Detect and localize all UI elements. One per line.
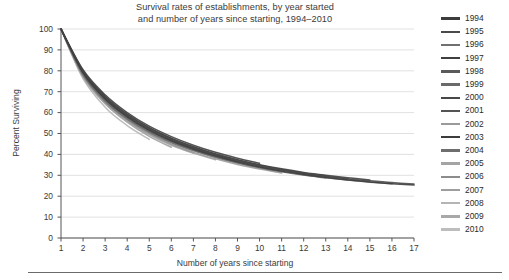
legend-item-label: 2001 <box>465 106 484 115</box>
chart-figure: Survival rates of establishments, by yea… <box>0 0 509 280</box>
x-tick-label: 8 <box>207 244 223 252</box>
series-line-2006 <box>61 29 193 153</box>
legend-item-2002[interactable]: 2002 <box>441 118 509 131</box>
legend-item-label: 1996 <box>465 40 484 49</box>
y-tick-label: 90 <box>31 46 53 54</box>
series-line-1994 <box>61 29 414 185</box>
x-tick-label: 14 <box>340 244 356 252</box>
series-line-2001 <box>61 29 304 174</box>
x-tick-label: 9 <box>230 244 246 252</box>
legend-item-label: 1994 <box>465 14 484 23</box>
x-tick-label: 17 <box>406 244 422 252</box>
x-tick-label: 11 <box>274 244 290 252</box>
x-tick-label: 2 <box>75 244 91 252</box>
legend-item-label: 2002 <box>465 120 484 129</box>
legend-item-2007[interactable]: 2007 <box>441 183 509 196</box>
y-tick-label: 100 <box>31 25 53 33</box>
legend-item-label: 2006 <box>465 172 484 181</box>
legend-item-2003[interactable]: 2003 <box>441 131 509 144</box>
legend-line-swatch <box>441 202 460 204</box>
series-line-2004 <box>61 29 238 162</box>
legend-item-label: 2009 <box>465 212 484 221</box>
legend-item-1997[interactable]: 1997 <box>441 52 509 65</box>
plot-svg <box>0 0 509 280</box>
legend-line-swatch <box>441 189 460 191</box>
legend-line-swatch <box>441 57 460 59</box>
legend-line-swatch <box>441 83 460 85</box>
legend-line-swatch <box>441 70 460 72</box>
x-tick-label: 10 <box>252 244 268 252</box>
legend-item-label: 2008 <box>465 199 484 208</box>
legend-item-label: 2000 <box>465 93 484 102</box>
y-tick-label: 40 <box>31 150 53 158</box>
legend-item-2005[interactable]: 2005 <box>441 157 509 170</box>
legend-line-swatch <box>441 136 460 138</box>
x-tick-label: 12 <box>296 244 312 252</box>
legend-item-1994[interactable]: 1994 <box>441 12 509 25</box>
x-tick-label: 4 <box>119 244 135 252</box>
legend-item-1998[interactable]: 1998 <box>441 65 509 78</box>
legend-item-label: 2003 <box>465 133 484 142</box>
y-tick-label: 0 <box>31 234 53 242</box>
x-tick-label: 3 <box>97 244 113 252</box>
legend-item-label: 2007 <box>465 186 484 195</box>
y-tick-label: 30 <box>31 171 53 179</box>
legend-item-label: 1995 <box>465 27 484 36</box>
legend-item-label: 2005 <box>465 159 484 168</box>
legend-item-2006[interactable]: 2006 <box>441 170 509 183</box>
chart-legend: 1994199519961997199819992000200120022003… <box>441 12 509 236</box>
series-line-2003 <box>61 29 260 163</box>
y-tick-label: 20 <box>31 192 53 200</box>
legend-line-swatch <box>441 17 460 19</box>
legend-item-2009[interactable]: 2009 <box>441 210 509 223</box>
legend-item-2004[interactable]: 2004 <box>441 144 509 157</box>
legend-line-swatch <box>441 97 460 99</box>
legend-line-swatch <box>441 162 460 164</box>
y-tick-label: 50 <box>31 129 53 137</box>
y-tick-label: 80 <box>31 67 53 75</box>
x-tick-label: 1 <box>53 244 69 252</box>
legend-line-swatch <box>441 123 460 125</box>
legend-item-label: 2004 <box>465 146 484 155</box>
legend-line-swatch <box>441 31 460 33</box>
x-tick-label: 15 <box>362 244 378 252</box>
legend-item-1999[interactable]: 1999 <box>441 78 509 91</box>
legend-item-1996[interactable]: 1996 <box>441 38 509 51</box>
x-tick-label: 13 <box>318 244 334 252</box>
y-axis-title: Percent Surviving <box>11 63 21 183</box>
legend-item-2000[interactable]: 2000 <box>441 91 509 104</box>
series-line-2005 <box>61 29 215 160</box>
legend-item-label: 2010 <box>465 225 484 234</box>
legend-line-swatch <box>441 176 460 178</box>
legend-line-swatch <box>441 228 460 230</box>
x-tick-label: 6 <box>163 244 179 252</box>
legend-item-label: 1998 <box>465 67 484 76</box>
x-tick-label: 5 <box>141 244 157 252</box>
legend-line-swatch <box>441 110 460 112</box>
legend-item-2001[interactable]: 2001 <box>441 104 509 117</box>
y-tick-label: 60 <box>31 108 53 116</box>
series-line-2002 <box>61 29 282 173</box>
y-tick-label: 10 <box>31 213 53 221</box>
x-tick-label: 16 <box>384 244 400 252</box>
legend-line-swatch <box>441 215 460 217</box>
legend-item-2010[interactable]: 2010 <box>441 223 509 236</box>
plot-area <box>0 0 509 280</box>
x-axis-title: Number of years since starting <box>56 258 414 268</box>
legend-item-label: 1999 <box>465 80 484 89</box>
legend-line-swatch <box>441 44 460 46</box>
legend-line-swatch <box>441 149 460 151</box>
y-tick-label: 70 <box>31 88 53 96</box>
legend-item-2008[interactable]: 2008 <box>441 197 509 210</box>
x-tick-label: 7 <box>185 244 201 252</box>
legend-item-1995[interactable]: 1995 <box>441 25 509 38</box>
legend-item-label: 1997 <box>465 54 484 63</box>
footer-rule <box>28 272 502 273</box>
